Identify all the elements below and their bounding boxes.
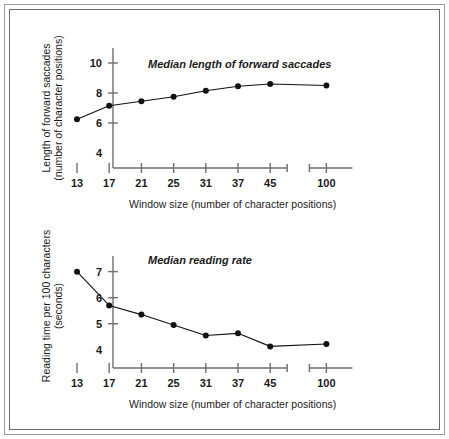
- reading-rate-chart: 456713172125313745100Window size (number…: [10, 216, 441, 431]
- x-tick-label-17: 17: [103, 377, 115, 389]
- x-tick-label-100: 100: [317, 177, 335, 189]
- x-tick-label-25: 25: [167, 177, 179, 189]
- data-point-13: [74, 116, 80, 122]
- x-tick-label-45: 45: [264, 377, 276, 389]
- x-tick-label-37: 37: [232, 177, 244, 189]
- chart-title: Median reading rate: [148, 254, 252, 266]
- y-tick-label-8: 8: [96, 87, 102, 99]
- data-point-37: [235, 83, 241, 89]
- x-tick-label-21: 21: [135, 177, 147, 189]
- x-axis-title: Window size (number of character positio…: [129, 198, 336, 210]
- y-tick-label-4: 4: [96, 147, 103, 159]
- chart-panel-reading-rate: 456713172125313745100Window size (number…: [10, 216, 439, 431]
- data-point-13: [74, 269, 80, 275]
- y-tick-label-5: 5: [96, 318, 102, 330]
- y-axis-title-line-1: Length of forward saccades: [40, 44, 52, 173]
- y-tick-label-4: 4: [96, 344, 103, 356]
- x-tick-label-100: 100: [317, 377, 335, 389]
- x-axis-title: Window size (number of character positio…: [129, 398, 336, 410]
- y-axis-title-line-2: (number of character positions): [52, 35, 64, 180]
- chart-panel-forward-saccades: 4681013172125313745100Window size (numbe…: [10, 10, 439, 222]
- x-tick-label-21: 21: [135, 377, 147, 389]
- y-tick-label-7: 7: [96, 266, 102, 278]
- x-tick-label-45: 45: [264, 177, 276, 189]
- data-point-17: [106, 302, 112, 308]
- data-point-25: [171, 94, 177, 100]
- y-axis-title-line-2: (seconds): [52, 283, 64, 329]
- data-point-31: [203, 88, 209, 94]
- data-point-100: [323, 341, 329, 347]
- x-tick-label-37: 37: [232, 377, 244, 389]
- x-tick-label-13: 13: [71, 177, 83, 189]
- x-tick-label-31: 31: [200, 377, 212, 389]
- x-tick-label-25: 25: [167, 377, 179, 389]
- data-point-45: [267, 343, 273, 349]
- data-point-25: [171, 322, 177, 328]
- y-tick-label-10: 10: [90, 57, 102, 69]
- data-point-45: [267, 81, 273, 87]
- x-tick-label-31: 31: [200, 177, 212, 189]
- figure-outer-frame: 4681013172125313745100Window size (numbe…: [4, 4, 445, 435]
- data-point-21: [138, 312, 144, 318]
- data-point-17: [106, 103, 112, 109]
- chart-title: Median length of forward saccades: [148, 58, 331, 70]
- data-point-37: [235, 330, 241, 336]
- y-axis-title-line-1: Reading time per 100 characters: [40, 230, 52, 382]
- data-point-21: [138, 98, 144, 104]
- data-point-31: [203, 332, 209, 338]
- forward-saccades-chart: 4681013172125313745100Window size (numbe…: [10, 10, 441, 222]
- x-tick-label-13: 13: [71, 377, 83, 389]
- series-line: [77, 272, 326, 347]
- data-point-100: [323, 83, 329, 89]
- series-line: [77, 84, 326, 119]
- figure-inner-frame: 4681013172125313745100Window size (numbe…: [9, 9, 440, 430]
- x-tick-label-17: 17: [103, 177, 115, 189]
- y-tick-label-6: 6: [96, 117, 102, 129]
